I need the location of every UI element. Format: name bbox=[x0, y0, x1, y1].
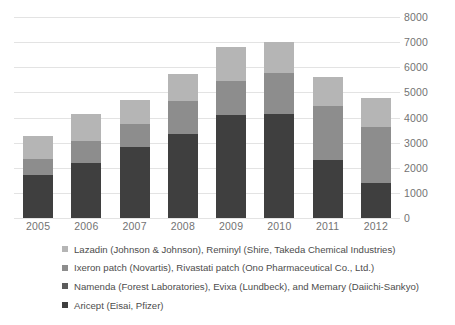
bar-segment bbox=[23, 136, 53, 159]
bar-segment bbox=[264, 73, 294, 114]
legend-item[interactable]: Aricept (Eisai, Pfizer) bbox=[62, 296, 452, 315]
stacked-bar bbox=[23, 136, 53, 218]
bar-column bbox=[15, 17, 62, 218]
bar-segment bbox=[120, 147, 150, 218]
bar-column bbox=[160, 17, 207, 218]
x-axis-tick-label: 2008 bbox=[160, 220, 207, 232]
x-axis-tick-label: 2009 bbox=[208, 220, 255, 232]
bar-column bbox=[111, 17, 158, 218]
y-axis-tick-label: 6000 bbox=[404, 61, 428, 73]
y-axis-tick-label: 1000 bbox=[404, 187, 428, 199]
bar-segment bbox=[216, 115, 246, 218]
x-axis-tick-label: 2005 bbox=[15, 220, 62, 232]
stacked-bar-chart: 800070006000500040003000200010000 200520… bbox=[0, 0, 455, 325]
y-axis-tick-label: 3000 bbox=[404, 137, 428, 149]
gridline bbox=[14, 218, 400, 219]
y-axis-tick-label: 4000 bbox=[404, 112, 428, 124]
bar-group bbox=[14, 17, 400, 218]
bar-segment bbox=[264, 114, 294, 218]
bar-column bbox=[63, 17, 110, 218]
bar-segment bbox=[313, 77, 343, 106]
bar-segment bbox=[23, 159, 53, 175]
x-axis-labels: 20052006200720082009201020112012 bbox=[14, 220, 400, 232]
legend-item[interactable]: Namenda (Forest Laboratories), Evixa (Lu… bbox=[62, 277, 452, 296]
bar-column bbox=[208, 17, 255, 218]
x-axis-tick-label: 2011 bbox=[304, 220, 351, 232]
y-axis-tick-label: 2000 bbox=[404, 162, 428, 174]
legend-item[interactable]: Ixeron patch (Novartis), Rivastati patch… bbox=[62, 259, 452, 278]
legend-swatch-icon bbox=[62, 265, 68, 271]
y-axis-tick-label: 8000 bbox=[404, 11, 428, 23]
stacked-bar bbox=[120, 100, 150, 218]
y-axis-tick-label: 0 bbox=[404, 212, 410, 224]
plot-canvas bbox=[14, 17, 400, 218]
bar-segment bbox=[216, 47, 246, 81]
x-axis-tick-label: 2012 bbox=[353, 220, 400, 232]
legend-item-label: Aricept (Eisai, Pfizer) bbox=[74, 300, 164, 311]
stacked-bar bbox=[361, 98, 391, 218]
bar-segment bbox=[361, 127, 391, 183]
bar-segment bbox=[71, 141, 101, 163]
bar-segment bbox=[264, 42, 294, 73]
bar-segment bbox=[313, 160, 343, 218]
bar-column bbox=[256, 17, 303, 218]
chart-legend: Lazadin (Johnson & Johnson), Reminyl (Sh… bbox=[62, 240, 452, 314]
legend-item[interactable]: Lazadin (Johnson & Johnson), Reminyl (Sh… bbox=[62, 240, 452, 259]
bar-segment bbox=[120, 124, 150, 147]
x-axis-tick-label: 2006 bbox=[63, 220, 110, 232]
bar-segment bbox=[168, 134, 198, 218]
bar-segment bbox=[361, 98, 391, 127]
legend-swatch-icon bbox=[62, 283, 68, 289]
y-axis-tick-label: 5000 bbox=[404, 86, 428, 98]
legend-swatch-icon bbox=[62, 246, 68, 252]
legend-swatch-icon bbox=[62, 302, 68, 308]
bar-segment bbox=[361, 183, 391, 218]
bar-column bbox=[353, 17, 400, 218]
bar-segment bbox=[168, 101, 198, 134]
stacked-bar bbox=[264, 42, 294, 218]
bar-segment bbox=[313, 106, 343, 160]
stacked-bar bbox=[168, 74, 198, 218]
bar-segment bbox=[71, 163, 101, 218]
y-axis-tick-label: 7000 bbox=[404, 36, 428, 48]
bar-segment bbox=[120, 100, 150, 124]
legend-item-label: Namenda (Forest Laboratories), Evixa (Lu… bbox=[74, 281, 419, 292]
x-axis-tick-label: 2010 bbox=[256, 220, 303, 232]
bar-segment bbox=[168, 74, 198, 101]
bar-segment bbox=[23, 175, 53, 218]
stacked-bar bbox=[216, 47, 246, 218]
stacked-bar bbox=[313, 77, 343, 218]
bar-segment bbox=[71, 114, 101, 141]
legend-item-label: Ixeron patch (Novartis), Rivastati patch… bbox=[74, 262, 374, 273]
stacked-bar bbox=[71, 114, 101, 218]
plot-area: 800070006000500040003000200010000 200520… bbox=[0, 0, 455, 240]
legend-item-label: Lazadin (Johnson & Johnson), Reminyl (Sh… bbox=[74, 244, 395, 255]
bar-segment bbox=[216, 81, 246, 115]
bar-column bbox=[304, 17, 351, 218]
x-axis-tick-label: 2007 bbox=[111, 220, 158, 232]
